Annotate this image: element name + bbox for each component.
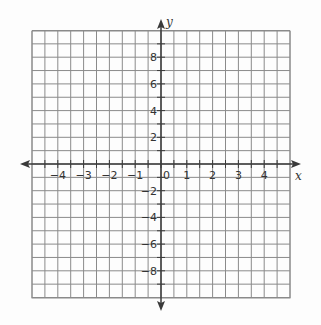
coordinate-plane: −4−3−2−112348642−2−4−6−8 x y 0 [0, 0, 321, 325]
y-tick-label: −4 [141, 211, 157, 224]
y-tick-label: −2 [141, 185, 157, 198]
y-tick-label: −6 [141, 238, 157, 251]
origin-label: 0 [163, 169, 170, 182]
y-tick-label: 6 [150, 78, 157, 91]
x-tick-label: 1 [183, 169, 190, 182]
y-tick-label: −8 [141, 265, 157, 278]
x-tick-label: 2 [209, 169, 216, 182]
y-tick-label: 4 [150, 105, 157, 118]
x-tick-label: −4 [50, 169, 66, 182]
x-axis-label: x [295, 169, 302, 183]
x-tick-label: 4 [261, 169, 268, 182]
y-axis-label: y [165, 15, 173, 29]
x-tick-label: −2 [101, 169, 117, 182]
x-tick-label: −1 [127, 169, 143, 182]
x-tick-label: 3 [235, 169, 242, 182]
y-tick-label: 8 [150, 51, 157, 64]
x-tick-label: −3 [75, 169, 91, 182]
y-tick-label: 2 [150, 131, 157, 144]
